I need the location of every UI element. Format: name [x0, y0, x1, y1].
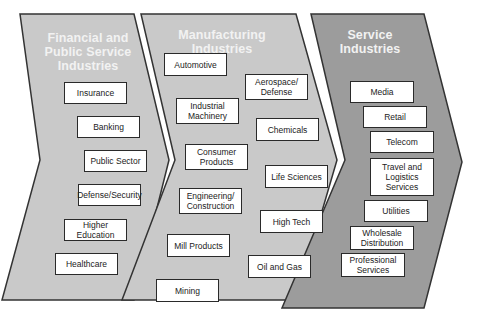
- industry-defense-security: Defense/Security: [78, 184, 141, 206]
- panel-manufacturing-title: Manufacturing Industries: [152, 28, 292, 56]
- industry-utilities: Utilities: [364, 200, 428, 222]
- industry-mining: Mining: [156, 279, 219, 302]
- industry-life-sciences: Life Sciences: [265, 165, 328, 188]
- industry-consumer-products: Consumer Products: [185, 144, 248, 170]
- industry-professional-services: Professional Services: [341, 253, 405, 277]
- industry-chemicals: Chemicals: [256, 118, 319, 141]
- industry-insurance: Insurance: [64, 82, 127, 104]
- industry-aerospace-defense: Aerospace/ Defense: [245, 74, 308, 100]
- panel-service-title: Service Industries: [320, 28, 420, 56]
- industry-higher-education: Higher Education: [64, 219, 127, 241]
- industry-retail: Retail: [363, 106, 427, 128]
- industry-banking: Banking: [77, 116, 140, 138]
- industry-telecom: Telecom: [370, 131, 434, 153]
- industry-high-tech: High Tech: [260, 210, 323, 233]
- industry-automotive: Automotive: [164, 53, 227, 76]
- industry-healthcare: Healthcare: [55, 253, 118, 275]
- industry-mill-products: Mill Products: [167, 234, 230, 257]
- panel-financial-title: Financial and Public Service Industries: [38, 31, 138, 73]
- industry-industrial-machinery: Industrial Machinery: [176, 98, 239, 124]
- industry-public-sector: Public Sector: [84, 150, 147, 172]
- industry-wholesale-distribution: Wholesale Distribution: [350, 226, 414, 250]
- industry-engineering-construction: Engineering/ Construction: [179, 188, 242, 214]
- industry-travel-logistics: Travel and Logistics Services: [370, 158, 434, 196]
- industry-oil-and-gas: Oil and Gas: [248, 255, 311, 278]
- industry-media: Media: [350, 81, 414, 103]
